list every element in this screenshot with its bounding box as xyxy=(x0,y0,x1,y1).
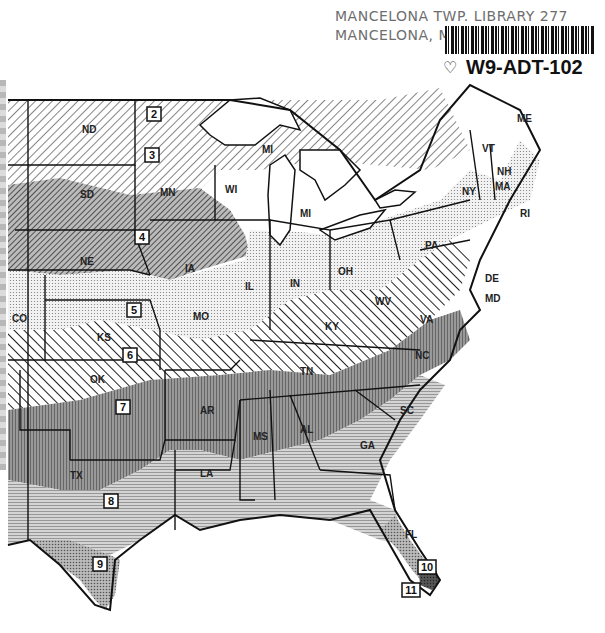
state-label-pa: PA xyxy=(425,240,438,251)
state-label-la: LA xyxy=(200,468,213,479)
state-label-va: VA xyxy=(420,314,433,325)
state-label-il: IL xyxy=(245,281,254,292)
state-label-nh: NH xyxy=(497,166,511,177)
state-label-mi: MI xyxy=(300,208,311,219)
svg-text:2: 2 xyxy=(151,108,157,120)
state-label-in: IN xyxy=(290,278,300,289)
svg-text:6: 6 xyxy=(127,349,133,361)
zone-label-6: 6 xyxy=(123,348,137,362)
svg-text:9: 9 xyxy=(97,558,103,570)
state-label-nd: ND xyxy=(82,124,96,135)
zone-label-11: 11 xyxy=(402,583,420,597)
state-label-tn: TN xyxy=(300,366,313,377)
hardiness-zone-map: ND SD MN WI MI MI NE IA IL IN OH PA NY V… xyxy=(0,0,605,633)
state-label-nc: NC xyxy=(415,350,429,361)
state-label-ar: AR xyxy=(200,405,215,416)
zone-label-5: 5 xyxy=(127,303,141,317)
state-label-ne: NE xyxy=(80,256,94,267)
state-label-md: MD xyxy=(485,293,501,304)
state-label-wv: WV xyxy=(375,296,391,307)
lake-ontario xyxy=(375,190,415,208)
state-label-mn: MN xyxy=(160,187,176,198)
state-label-oh: OH xyxy=(338,266,353,277)
svg-text:4: 4 xyxy=(139,231,146,243)
state-label-ok: OK xyxy=(90,374,106,385)
svg-text:3: 3 xyxy=(149,149,155,161)
state-label-wi: WI xyxy=(225,184,237,195)
state-label-fl: FL xyxy=(405,529,417,540)
zone-label-9: 9 xyxy=(93,557,107,571)
svg-text:8: 8 xyxy=(108,495,114,507)
state-label-ny: NY xyxy=(462,186,476,197)
state-label-ms: MS xyxy=(253,431,268,442)
state-label-ma: MA xyxy=(495,181,511,192)
zone-label-8: 8 xyxy=(104,494,118,508)
state-label-al: AL xyxy=(300,424,313,435)
state-label-de: DE xyxy=(485,273,499,284)
state-label-sc: SC xyxy=(400,405,414,416)
state-label-vt: VT xyxy=(482,143,495,154)
svg-text:7: 7 xyxy=(120,401,126,413)
state-label-ga: GA xyxy=(360,440,375,451)
state-label-sd: SD xyxy=(80,189,94,200)
zone-label-2: 2 xyxy=(147,107,161,121)
state-label-ky: KY xyxy=(325,321,339,332)
state-label-ia: IA xyxy=(185,263,195,274)
state-label-ks: KS xyxy=(97,332,111,343)
state-label-me: ME xyxy=(517,113,532,124)
zone-label-10: 10 xyxy=(418,560,436,574)
state-label-mo: MO xyxy=(193,311,209,322)
zone-label-7: 7 xyxy=(116,400,130,414)
state-label-co: CO xyxy=(12,313,27,324)
svg-text:10: 10 xyxy=(421,561,433,573)
svg-text:11: 11 xyxy=(405,584,417,596)
state-label-ri: RI xyxy=(520,208,530,219)
svg-text:5: 5 xyxy=(131,304,137,316)
zone-label-3: 3 xyxy=(145,148,159,162)
lake-michigan xyxy=(268,155,295,245)
state-label-mi-upper: MI xyxy=(262,144,273,155)
state-label-tx: TX xyxy=(70,470,83,481)
zone-label-4: 4 xyxy=(135,230,149,244)
